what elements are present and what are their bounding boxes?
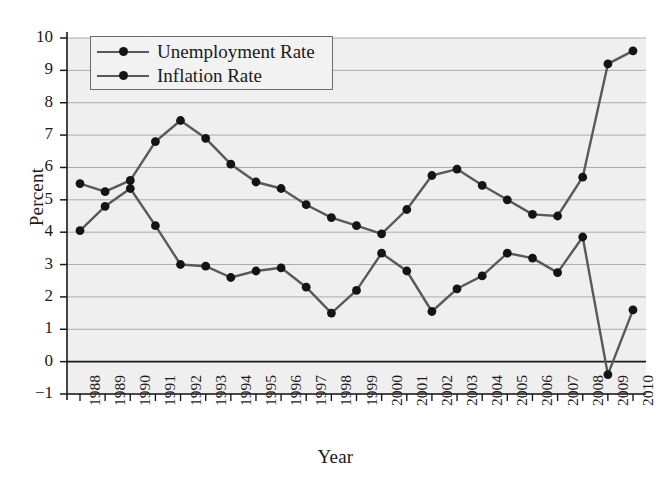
data-point <box>76 179 85 188</box>
data-point <box>277 263 286 272</box>
data-point <box>101 202 110 211</box>
data-point <box>629 306 638 315</box>
y-tick-label: 8 <box>19 92 53 112</box>
data-point <box>176 260 185 269</box>
data-point <box>604 60 613 69</box>
x-tick-label: 2006 <box>538 375 556 406</box>
data-point <box>252 267 261 276</box>
chart-figure: Percent Year Unemployment Rate Inflation… <box>0 0 671 479</box>
y-tick-label: 4 <box>19 221 53 241</box>
data-point <box>327 309 336 318</box>
data-point <box>201 134 210 143</box>
data-point <box>277 184 286 193</box>
x-axis-title: Year <box>0 446 671 468</box>
data-point <box>629 47 638 56</box>
data-point <box>528 254 537 263</box>
data-point <box>402 205 411 214</box>
legend-label: Inflation Rate <box>149 65 262 87</box>
x-tick-label: 2003 <box>463 375 481 406</box>
data-point <box>176 116 185 125</box>
x-tick-label: 1993 <box>212 375 230 406</box>
x-tick-label: 2000 <box>388 375 406 406</box>
y-tick-label: 10 <box>19 27 53 47</box>
data-point <box>578 173 587 182</box>
legend-entry-inflation-rate: Inflation Rate <box>97 63 262 88</box>
data-point <box>478 181 487 190</box>
data-point <box>352 221 361 230</box>
x-tick-label: 1988 <box>86 375 104 406</box>
x-tick-label: 2010 <box>639 375 657 406</box>
data-point <box>76 226 85 235</box>
x-tick-label: 2005 <box>513 375 531 406</box>
x-tick-label: 2008 <box>589 375 607 406</box>
x-tick-label: 2004 <box>488 375 506 406</box>
data-point <box>101 187 110 196</box>
y-tick-label: 1 <box>19 318 53 338</box>
y-tick-label: 7 <box>19 124 53 144</box>
x-tick-label: 1989 <box>111 375 129 406</box>
x-tick-label: 2002 <box>438 375 456 406</box>
legend-entry-unemployment-rate: Unemployment Rate <box>97 39 315 64</box>
data-point <box>402 267 411 276</box>
data-point <box>503 195 512 204</box>
data-point <box>377 249 386 258</box>
data-point <box>151 221 160 230</box>
data-point <box>302 200 311 209</box>
data-point <box>478 272 487 281</box>
y-tick-label: 5 <box>19 189 53 209</box>
data-point <box>428 307 437 316</box>
x-tick-label: 2007 <box>564 375 582 406</box>
data-point <box>503 249 512 258</box>
data-point <box>528 210 537 219</box>
x-tick-label: 1995 <box>262 375 280 406</box>
x-tick-label: 1992 <box>187 375 205 406</box>
chart-legend: Unemployment Rate Inflation Rate <box>90 36 333 90</box>
y-tick-label: 2 <box>19 286 53 306</box>
data-point <box>453 284 462 293</box>
data-point <box>352 286 361 295</box>
x-tick-label: 2001 <box>413 375 431 406</box>
data-point <box>377 229 386 238</box>
data-point <box>252 178 261 187</box>
data-point <box>126 184 135 193</box>
y-tick-label: 6 <box>19 156 53 176</box>
data-point <box>428 171 437 180</box>
data-point <box>126 176 135 185</box>
x-tick-label: 1997 <box>312 375 330 406</box>
x-tick-label: 1998 <box>337 375 355 406</box>
data-point <box>578 233 587 242</box>
data-point <box>226 273 235 282</box>
x-tick-label: 1990 <box>136 375 154 406</box>
y-tick-label: 0 <box>19 351 53 371</box>
x-tick-label: 1991 <box>161 375 179 406</box>
x-tick-label: 1994 <box>237 375 255 406</box>
x-tick-label: 1999 <box>363 375 381 406</box>
y-tick-label: −1 <box>19 383 53 403</box>
y-tick-label: 9 <box>19 59 53 79</box>
data-point <box>151 137 160 146</box>
data-point <box>201 262 210 271</box>
data-point <box>453 165 462 174</box>
y-tick-label: 3 <box>19 254 53 274</box>
data-point <box>226 160 235 169</box>
legend-line-marker-icon <box>97 45 149 59</box>
data-point <box>302 283 311 292</box>
legend-line-marker-icon <box>97 69 149 83</box>
data-point <box>553 212 562 221</box>
legend-label: Unemployment Rate <box>149 41 315 63</box>
x-tick-label: 1996 <box>287 375 305 406</box>
data-point <box>327 213 336 222</box>
x-tick-label: 2009 <box>614 375 632 406</box>
data-point <box>553 268 562 277</box>
